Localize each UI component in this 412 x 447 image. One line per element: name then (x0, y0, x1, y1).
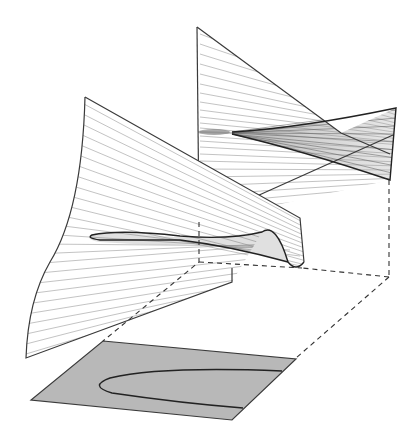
control-plane (31, 341, 296, 420)
cusp-point (198, 129, 230, 135)
dashed-to-plane-right (296, 277, 389, 358)
cusp-catastrophe-diagram (0, 0, 412, 447)
dashed-to-fold (302, 268, 389, 277)
shaded-plane (31, 341, 296, 420)
